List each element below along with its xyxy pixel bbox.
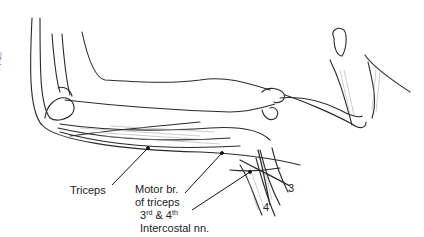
artist-signature: ©Baker bbox=[0, 52, 2, 71]
triceps-leader bbox=[112, 148, 148, 185]
label-nerve-4: 4 bbox=[263, 201, 269, 214]
humerus-head bbox=[262, 88, 284, 102]
forearm-outline bbox=[82, 32, 270, 90]
label-intercostal: 3rd & 4th Intercostal nn. bbox=[140, 209, 209, 235]
ear bbox=[333, 28, 346, 56]
label-triceps: Triceps bbox=[70, 184, 106, 197]
label-intercostal-line2: Intercostal nn. bbox=[140, 222, 209, 235]
label-motor-line1: Motor br. bbox=[135, 183, 180, 196]
intercostal-leader bbox=[192, 172, 250, 210]
motor-branch-leader bbox=[185, 153, 222, 193]
label-motor-branch: Motor br. of triceps bbox=[135, 183, 180, 209]
scapula bbox=[330, 60, 352, 125]
label-nerve-3: 3 bbox=[288, 182, 294, 195]
anatomy-illustration bbox=[0, 0, 424, 237]
arm-outline bbox=[31, 18, 300, 165]
label-intercostal-line1: 3rd & 4th bbox=[140, 209, 209, 222]
label-motor-line2: of triceps bbox=[135, 196, 180, 209]
